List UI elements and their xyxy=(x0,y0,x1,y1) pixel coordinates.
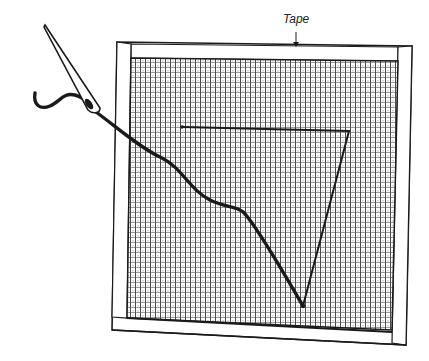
mesh-canvas xyxy=(127,58,398,330)
needle-icon xyxy=(44,25,100,113)
tape-label: Tape xyxy=(283,12,309,26)
diagram-canvas xyxy=(0,0,429,361)
stitching-diagram: Tape xyxy=(0,0,429,361)
